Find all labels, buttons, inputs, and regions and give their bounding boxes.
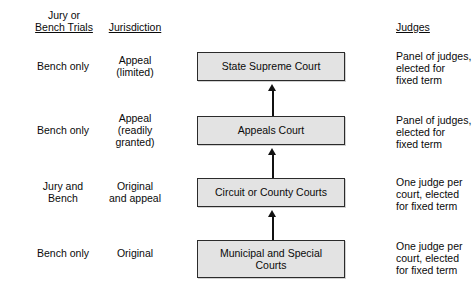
row-2-judges-line1: Panel of judges, [396, 114, 472, 126]
court-box-state-supreme-court[interactable]: State Supreme Court [197, 52, 345, 81]
row-2-jurisdiction-line2: (readily [95, 124, 175, 136]
arrow-appeals-to-supreme-icon [268, 84, 277, 116]
row-4-jurisdiction: Original [95, 247, 175, 259]
row-1-judges: Panel of judges, elected for fixed term [396, 50, 472, 86]
row-2-judges: Panel of judges, elected for fixed term [396, 114, 472, 150]
arrow-municipal-to-circuit-icon [268, 210, 277, 242]
row-1-jurisdiction: Appeal (limited) [95, 54, 175, 78]
row-4-judges-line3: for fixed term [396, 264, 472, 276]
row-2-judges-line2: elected for [396, 126, 472, 138]
row-3-jurisdiction-line2: and appeal [95, 192, 175, 204]
court-box-municipal-and-special-courts[interactable]: Municipal and Special Courts [197, 240, 345, 278]
header-jurisdiction: Jurisdiction [95, 22, 175, 34]
row-3-judges-line2: court, elected [396, 188, 472, 200]
header-judges: Judges [396, 22, 430, 34]
court-box-state-supreme-court-label: State Supreme Court [222, 60, 321, 73]
row-3-jurisdiction-line1: Original [95, 180, 175, 192]
row-1-judges-line3: fixed term [396, 74, 472, 86]
row-3-judges-line1: One judge per [396, 176, 472, 188]
row-2-jurisdiction-line3: granted) [95, 136, 175, 148]
header-jury-line2: Bench Trials [35, 21, 93, 33]
row-2-jurisdiction: Appeal (readily granted) [95, 112, 175, 148]
court-box-appeals-court-label: Appeals Court [238, 124, 305, 137]
row-4-judges-line1: One judge per [396, 240, 472, 252]
row-4-judges: One judge per court, elected for fixed t… [396, 240, 472, 276]
court-box-appeals-court[interactable]: Appeals Court [197, 116, 345, 145]
row-3-judges: One judge per court, elected for fixed t… [396, 176, 472, 212]
row-1-judges-line2: elected for [396, 62, 472, 74]
column-headers: Jury or Bench Trials Jurisdiction Judges [0, 10, 470, 42]
court-box-municipal-and-special-courts-label-line1: Municipal and Special [220, 247, 322, 260]
row-1-judges-line1: Panel of judges, [396, 50, 472, 62]
row-2-jurisdiction-line1: Appeal [95, 112, 175, 124]
row-4-judges-line2: court, elected [396, 252, 472, 264]
row-4-jurisdiction-line1: Original [95, 247, 175, 259]
row-3-judges-line3: for fixed term [396, 200, 472, 212]
row-1-jurisdiction-line1: Appeal [95, 54, 175, 66]
court-box-municipal-and-special-courts-label-line2: Courts [256, 259, 287, 272]
court-box-circuit-or-county-courts[interactable]: Circuit or County Courts [197, 178, 345, 207]
row-1-jurisdiction-line2: (limited) [95, 66, 175, 78]
court-box-circuit-or-county-courts-label: Circuit or County Courts [215, 186, 327, 199]
arrow-circuit-to-appeals-icon [268, 148, 277, 180]
row-3-jurisdiction: Original and appeal [95, 180, 175, 204]
header-jury-line1: Jury or [48, 9, 80, 21]
row-2-judges-line3: fixed term [396, 138, 472, 150]
